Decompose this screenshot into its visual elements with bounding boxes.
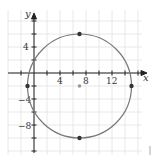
point-center [78,84,82,88]
y-tick-label-4: 4 [23,42,29,52]
point-top [77,32,81,36]
x-tick-label-8: 8 [83,76,89,86]
circle-graph: x y 4 8 12 4 −4 −8 [0,0,154,160]
point-bottom [77,136,81,140]
point-left [25,84,29,88]
y-axis-arrow-icon [32,13,37,19]
y-axis-label: y [24,8,31,19]
x-tick-label-4: 4 [57,76,63,86]
x-tick-label-12: 12 [106,76,117,86]
y-tick-label-neg8: −8 [18,121,32,131]
point-right [129,84,133,88]
x-axis-label: x [143,72,149,83]
